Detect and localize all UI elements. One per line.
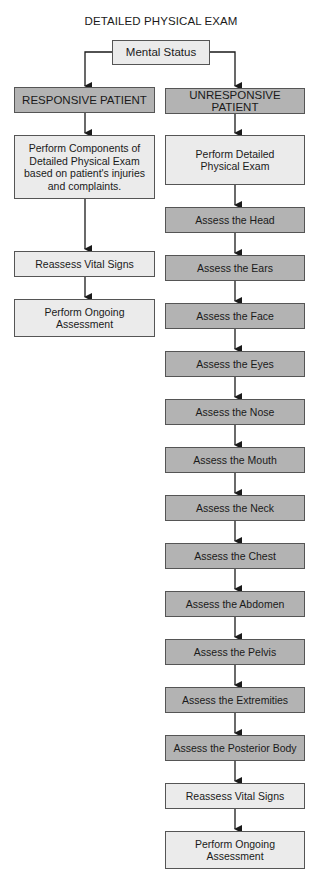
unresponsive-step-extremities: Assess the Extremities [165, 687, 305, 713]
unresponsive-step-ongoing-assessment: Perform Ongoing Assessment [165, 831, 305, 869]
mental-status-node: Mental Status [112, 40, 210, 65]
unresponsive-step-face: Assess the Face [165, 303, 305, 329]
unresponsive-step-chest: Assess the Chest [165, 543, 305, 569]
unresponsive-step-eyes: Assess the Eyes [165, 351, 305, 377]
unresponsive-step-ears: Assess the Ears [165, 255, 305, 281]
unresponsive-step-reassess-vitals: Reassess Vital Signs [165, 783, 305, 809]
diagram-title: DETAILED PHYSICAL EXAM [0, 15, 322, 27]
unresponsive-step-pelvis: Assess the Pelvis [165, 639, 305, 665]
unresponsive-step-nose: Assess the Nose [165, 399, 305, 425]
unresponsive-step-abdomen: Assess the Abdomen [165, 591, 305, 617]
responsive-patient-node: RESPONSIVE PATIENT [14, 87, 155, 113]
unresponsive-step-neck: Assess the Neck [165, 495, 305, 521]
responsive-step-ongoing-assessment: Perform Ongoing Assessment [14, 299, 155, 337]
unresponsive-step-head: Assess the Head [165, 207, 305, 233]
responsive-step-reassess-vitals: Reassess Vital Signs [14, 251, 155, 277]
unresponsive-patient-node: UNRESPONSIVE PATIENT [165, 88, 305, 114]
unresponsive-step-perform-detailed-exam: Perform Detailed Physical Exam [165, 135, 305, 185]
responsive-step-perform-components: Perform Components of Detailed Physical … [14, 135, 155, 199]
unresponsive-step-posterior-body: Assess the Posterior Body [165, 735, 305, 761]
unresponsive-step-mouth: Assess the Mouth [165, 447, 305, 473]
